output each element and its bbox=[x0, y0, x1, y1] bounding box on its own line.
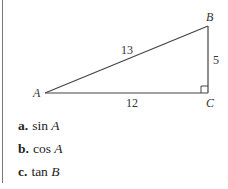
item-var: B bbox=[51, 164, 59, 179]
item-func: cos bbox=[33, 141, 51, 156]
item-letter: b. bbox=[18, 141, 29, 156]
item-func: tan bbox=[31, 164, 48, 179]
side-ab-length: 13 bbox=[121, 43, 133, 57]
item-letter: c. bbox=[18, 164, 27, 179]
side-ac-length: 12 bbox=[126, 96, 138, 110]
right-angle-marker bbox=[201, 86, 208, 93]
vertex-c-label: C bbox=[206, 96, 215, 110]
question-item-a: a.sin A bbox=[18, 114, 63, 137]
item-func: sin bbox=[32, 118, 48, 133]
item-letter: a. bbox=[18, 118, 28, 133]
question-item-b: b.cos A bbox=[18, 137, 63, 160]
side-ab bbox=[45, 26, 208, 93]
right-triangle-diagram: A B C 13 12 5 bbox=[0, 0, 228, 112]
item-var: A bbox=[54, 141, 62, 156]
vertex-b-label: B bbox=[206, 10, 214, 24]
question-list: a.sin A b.cos A c.tan B bbox=[18, 114, 63, 183]
side-bc-length: 5 bbox=[213, 53, 219, 67]
item-var: A bbox=[51, 118, 59, 133]
vertex-a-label: A bbox=[32, 86, 41, 100]
question-item-c: c.tan B bbox=[18, 160, 63, 183]
